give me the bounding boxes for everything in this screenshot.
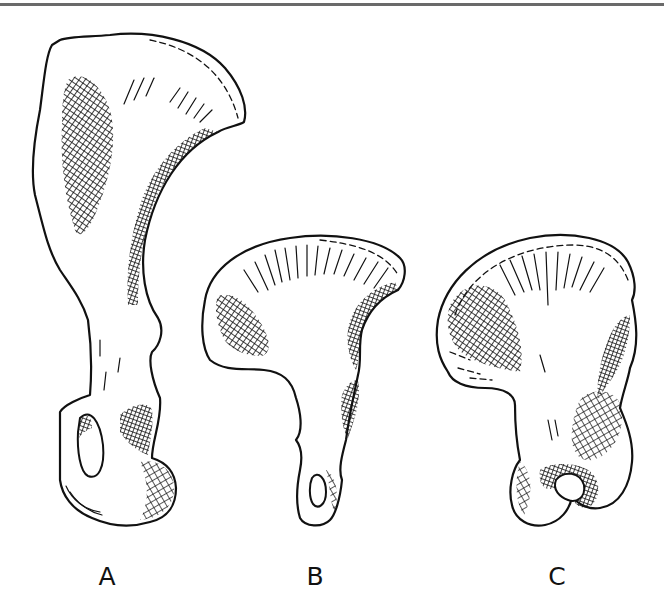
label-a: A	[92, 562, 122, 592]
label-c: C	[542, 562, 572, 592]
illustration	[0, 0, 664, 615]
bone-b	[202, 236, 405, 526]
figure: A B C	[0, 0, 664, 615]
bone-c	[437, 235, 637, 526]
label-b: B	[300, 562, 330, 592]
